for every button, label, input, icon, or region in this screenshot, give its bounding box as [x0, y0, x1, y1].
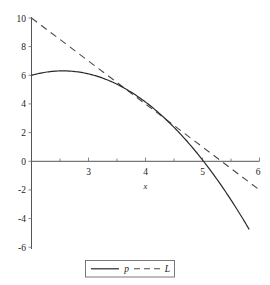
y-tick-label: 10	[17, 14, 27, 24]
x-tick-labels: 3 4 5 6	[86, 167, 261, 177]
y-tick-label: -2	[18, 185, 26, 195]
x-tick-label: 4	[143, 167, 148, 177]
legend: p L	[86, 261, 175, 278]
y-tick-label: 4	[21, 99, 26, 109]
y-tick-label: 2	[21, 128, 26, 138]
axes-group	[32, 17, 260, 249]
y-tick-label: -6	[18, 243, 26, 253]
y-tick-label: 8	[21, 42, 26, 52]
x-tick-marks	[60, 158, 260, 162]
y-tick-label: -4	[18, 214, 26, 224]
y-tick-labels: 10 8 6 4 2 0 -2 -4 -6	[17, 14, 27, 253]
plot-canvas: 10 8 6 4 2 0 -2 -4 -6 3 4 5 6	[0, 0, 270, 285]
y-tick-label: 0	[21, 157, 26, 167]
x-axis-title: x	[143, 181, 148, 191]
legend-label-p: p	[123, 264, 129, 274]
series-curve-p	[32, 71, 250, 230]
x-tick-label: 5	[200, 167, 205, 177]
x-tick-label: 6	[256, 167, 261, 177]
series-line-L	[32, 18, 260, 190]
y-tick-label: 6	[21, 71, 26, 81]
plot-figure: 10 8 6 4 2 0 -2 -4 -6 3 4 5 6	[0, 0, 270, 285]
data-curves	[32, 18, 260, 229]
legend-label-l: L	[164, 264, 170, 274]
x-tick-label: 3	[86, 167, 91, 177]
